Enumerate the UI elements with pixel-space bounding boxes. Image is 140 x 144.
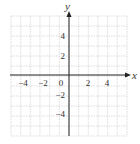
y-tick-label: 4 (61, 31, 66, 41)
coordinate-plane: x y −4 −2 0 2 4 4 2 −2 −4 (0, 0, 140, 144)
x-axis-label: x (131, 69, 137, 81)
x-tick-label: −2 (38, 78, 48, 88)
y-tick-label: −4 (55, 109, 65, 119)
x-tick-label: 2 (86, 78, 91, 88)
x-tick-label: 4 (105, 78, 110, 88)
axes (10, 11, 131, 136)
x-tick-label: −4 (18, 78, 28, 88)
y-axis-label: y (64, 0, 70, 12)
y-tick-label: 2 (61, 51, 66, 61)
x-tick-label: 0 (59, 78, 64, 88)
y-tick-label: −2 (55, 90, 65, 100)
x-tick-labels: −4 −2 0 2 4 (18, 78, 110, 88)
x-axis-arrow-icon (125, 73, 131, 78)
